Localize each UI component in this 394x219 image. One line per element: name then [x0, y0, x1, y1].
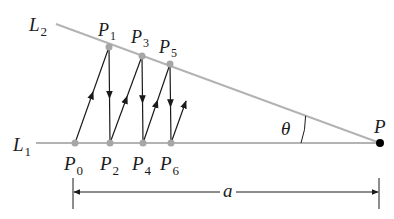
label-l2: L2	[28, 14, 47, 39]
vertex-p	[376, 139, 384, 147]
point-p2	[107, 140, 114, 147]
label-p2: P2	[99, 153, 119, 178]
point-p6	[168, 140, 175, 147]
point-p0	[72, 140, 79, 147]
dimension-a: a	[73, 178, 379, 209]
label-p3: P3	[130, 27, 149, 50]
point-p4	[140, 140, 147, 147]
diagram-canvas: L2 L1 P1 P3 P5 P0 P2 P4 P6 P θ a	[0, 0, 394, 219]
point-p1	[106, 44, 113, 51]
label-p4: P4	[131, 153, 152, 178]
label-p6: P6	[159, 153, 180, 178]
point-p3	[139, 53, 146, 60]
label-l1: L1	[12, 134, 31, 159]
point-p5	[167, 61, 174, 68]
label-p0: P0	[63, 153, 83, 178]
label-a: a	[223, 180, 233, 201]
label-theta: θ	[281, 118, 290, 139]
label-vertex-p: P	[373, 116, 386, 137]
label-p5: P5	[158, 37, 177, 60]
line-l2	[56, 24, 380, 143]
angle-arc	[301, 116, 306, 143]
label-p1: P1	[97, 20, 116, 43]
